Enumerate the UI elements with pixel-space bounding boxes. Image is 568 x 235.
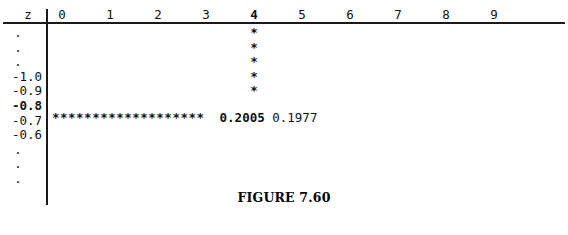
column-header-1: 1: [100, 8, 120, 22]
row-pointer-asterisks: *******************: [52, 110, 205, 125]
row-label-ellipsis: .: [0, 41, 46, 56]
row-label-ellipsis: .: [0, 26, 46, 41]
column-pointer-asterisks: * * * * *: [244, 26, 264, 99]
lookup-result-row: ******************* 0.2005 0.1977: [52, 110, 317, 125]
table-column-header-row: z 0 1 2 3 4 5 6 7 8 9: [0, 8, 568, 22]
header-horizontal-rule: [3, 22, 565, 24]
pointer-asterisk: *: [244, 26, 264, 41]
neighbor-value: 0.1977: [272, 110, 317, 125]
lookup-value: 0.2005: [220, 110, 265, 125]
row-label-ellipsis: .: [0, 157, 46, 172]
row-label-ellipsis: .: [0, 143, 46, 158]
row-label-ellipsis: .: [0, 172, 46, 187]
column-header-4: 4: [244, 8, 264, 22]
column-header-3: 3: [196, 8, 216, 22]
column-header-8: 8: [436, 8, 456, 22]
column-header-2: 2: [148, 8, 168, 22]
row-label-minus-0-6: -0.6: [0, 128, 46, 143]
pointer-asterisk: *: [244, 55, 264, 70]
column-header-0: 0: [52, 8, 72, 22]
row-label-vertical-rule: [46, 9, 48, 205]
value-spacer: [205, 110, 220, 125]
row-label-minus-1-0: -1.0: [0, 70, 46, 85]
column-header-7: 7: [388, 8, 408, 22]
row-label-column: . . . -1.0 -0.9 -0.8 -0.7 -0.6 . . .: [0, 26, 46, 187]
figure-caption: FIGURE 7.60: [0, 190, 568, 205]
column-header-9: 9: [484, 8, 504, 22]
row-label-minus-0-9: -0.9: [0, 84, 46, 99]
column-header-6: 6: [340, 8, 360, 22]
row-label-ellipsis: .: [0, 55, 46, 70]
pointer-asterisk: *: [244, 41, 264, 56]
row-label-minus-0-8: -0.8: [0, 99, 46, 114]
pointer-asterisk: *: [244, 84, 264, 99]
column-header-5: 5: [292, 8, 312, 22]
figure-container: z 0 1 2 3 4 5 6 7 8 9 . . . -1.0 -0.9 -0…: [0, 0, 568, 235]
row-label-minus-0-7: -0.7: [0, 114, 46, 129]
table-corner-label-z: z: [18, 8, 38, 22]
pointer-asterisk: *: [244, 70, 264, 85]
